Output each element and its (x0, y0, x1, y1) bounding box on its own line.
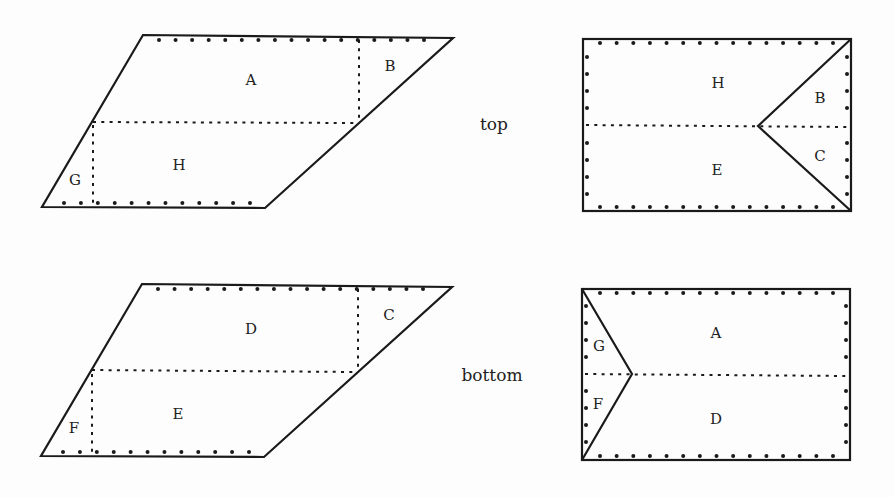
rivet-dot (631, 41, 635, 45)
rivet-dot (845, 192, 849, 196)
bottom-folded-chevron (582, 289, 632, 460)
rivet-dot (698, 454, 702, 458)
rivet-dot (404, 287, 408, 291)
rivet-dot (648, 291, 652, 295)
rivet-dot (845, 55, 849, 59)
rivet-dot (157, 38, 161, 42)
rivet-dot (156, 287, 160, 291)
bottom-net-parallelogram: D C E F (41, 284, 452, 457)
rivet-dot (781, 41, 785, 45)
rivet-dot (615, 454, 619, 458)
rivet-dot (197, 201, 201, 205)
rivet-dot (598, 41, 602, 45)
rivet-dot (214, 201, 218, 205)
rivet-dot (731, 41, 735, 45)
rivet-dot (78, 450, 82, 454)
rivet-dot (648, 41, 652, 45)
rivet-dot (422, 38, 426, 42)
rivet-dot (585, 106, 589, 110)
rivet-dot (731, 454, 735, 458)
rivet-dot (289, 287, 293, 291)
rivet-dot (306, 38, 310, 42)
top-folded-rivets (585, 41, 849, 209)
rivet-dot (798, 205, 802, 209)
rivet-dot (585, 55, 589, 59)
rivet-dot (844, 423, 848, 427)
rivet-dot (681, 291, 685, 295)
rivet-dot (305, 287, 309, 291)
rivet-dot (731, 205, 735, 209)
rivet-dot (764, 454, 768, 458)
region-label: B (384, 57, 395, 75)
top-folded-rectangle: H E B C (583, 39, 851, 211)
rivet-dot (845, 72, 849, 76)
rivet-dot (230, 450, 234, 454)
top-folded-outline (583, 39, 851, 211)
region-label: D (710, 410, 722, 428)
rivet-dot (240, 38, 244, 42)
rivet-dot (223, 38, 227, 42)
rivet-dot (62, 201, 66, 205)
rivet-dot (698, 205, 702, 209)
rivet-dot (845, 175, 849, 179)
rivet-dot (715, 291, 719, 295)
rivet-dot (748, 205, 752, 209)
region-label: E (712, 161, 723, 179)
rivet-dot (239, 287, 243, 291)
rivet-dot (648, 454, 652, 458)
region-label: D (245, 320, 257, 338)
rivet-dot (844, 321, 848, 325)
region-label: G (593, 337, 605, 355)
rivet-dot (615, 205, 619, 209)
rivet-dot (681, 41, 685, 45)
rivet-dot (764, 205, 768, 209)
rivet-dot (372, 38, 376, 42)
rivet-dot (322, 287, 326, 291)
rivet-dot (585, 175, 589, 179)
rivet-dot (421, 287, 425, 291)
rivet-dot (339, 38, 343, 42)
rivet-dot (585, 158, 589, 162)
rivet-dot (173, 287, 177, 291)
rivet-dot (748, 454, 752, 458)
region-label: F (593, 395, 603, 413)
rivet-dot (665, 41, 669, 45)
rivet-dot (844, 338, 848, 342)
rivet-dot (615, 41, 619, 45)
side-label-bottom: bottom (461, 365, 522, 385)
rivet-dot (814, 205, 818, 209)
top-net-rivets-top (157, 38, 426, 42)
rivet-dot (748, 41, 752, 45)
rivet-dot (831, 205, 835, 209)
rivet-dot (781, 291, 785, 295)
rivet-dot (831, 41, 835, 45)
region-label: C (814, 147, 825, 165)
rivet-dot (781, 454, 785, 458)
rivet-dot (844, 355, 848, 359)
rivet-dot (356, 38, 360, 42)
rivet-dot (764, 41, 768, 45)
rivet-dot (731, 291, 735, 295)
bottom-folded-outline (582, 289, 850, 460)
top-net-rivets-bottom (62, 201, 252, 205)
rivet-dot (256, 38, 260, 42)
rivet-dot (715, 454, 719, 458)
rivet-dot (631, 291, 635, 295)
rivet-dot (845, 106, 849, 110)
top-net-parallelogram: A B H G (42, 35, 453, 208)
rivet-dot (248, 201, 252, 205)
rivet-dot (584, 321, 588, 325)
rivet-dot (814, 454, 818, 458)
region-label: H (172, 156, 185, 174)
region-label: C (383, 306, 394, 324)
region-label: A (245, 71, 257, 89)
rivet-dot (845, 141, 849, 145)
rivet-dot (147, 201, 151, 205)
rivet-dot (681, 454, 685, 458)
bottom-net-horizontal-fold (92, 370, 355, 372)
rivet-dot (584, 355, 588, 359)
bottom-folded-rectangle: A D G F (582, 289, 850, 460)
rivet-dot (715, 41, 719, 45)
top-net-horizontal-fold (93, 122, 356, 123)
rivet-dot (631, 454, 635, 458)
